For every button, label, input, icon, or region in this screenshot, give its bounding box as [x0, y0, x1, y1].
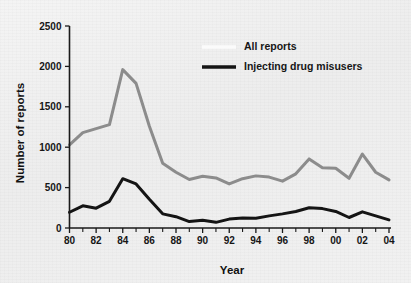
y-tick-label: 1500: [39, 101, 62, 112]
y-tick-label: 0: [56, 223, 62, 234]
legend-label-1: All reports: [244, 40, 297, 52]
x-tick-label: 00: [330, 235, 342, 246]
line-chart: 05001000150020002500 8082848688909294969…: [0, 0, 411, 283]
y-tick-label: 2500: [39, 21, 62, 32]
x-tick-label: 80: [64, 235, 76, 246]
series-line-1: [70, 70, 390, 184]
axes: [70, 26, 392, 228]
x-axis-title: Year: [220, 264, 245, 276]
legend: All reportsInjecting drug misusers: [202, 40, 363, 72]
y-tick-label: 2000: [39, 61, 62, 72]
y-tick-label: 1000: [39, 142, 62, 153]
x-tick-label: 98: [304, 235, 316, 246]
legend-label-2: Injecting drug misusers: [244, 60, 363, 72]
x-tick-label: 90: [197, 235, 209, 246]
x-tick-label: 96: [277, 235, 289, 246]
x-tick-label: 94: [250, 235, 262, 246]
x-tick-label: 82: [91, 235, 103, 246]
x-tick-label: 86: [144, 235, 156, 246]
x-tick-label: 88: [170, 235, 182, 246]
x-tick-label: 02: [357, 235, 369, 246]
x-tick-label: 84: [117, 235, 129, 246]
x-tick-label: 92: [224, 235, 236, 246]
x-tick-label: 04: [383, 235, 395, 246]
y-axis-ticks: 05001000150020002500: [39, 21, 69, 234]
series-lines: [70, 70, 390, 223]
y-tick-label: 500: [45, 182, 62, 193]
y-axis-title: Number of reports: [14, 83, 26, 183]
figure-background: 05001000150020002500 8082848688909294969…: [0, 0, 411, 283]
x-axis-ticks: 80828486889092949698000204: [64, 228, 395, 246]
plot-area: [70, 70, 390, 223]
